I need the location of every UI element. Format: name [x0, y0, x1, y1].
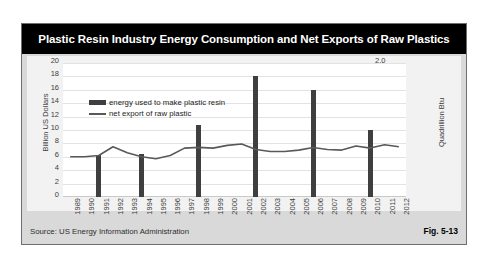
page-title: Plastic Resin Industry Energy Consumptio… — [38, 33, 449, 45]
y-tick-label-left: 8 — [55, 137, 59, 145]
y-tick-label-left: 18 — [51, 70, 59, 78]
x-tick-label: 1991 — [102, 198, 111, 215]
y-tick-label-left: 6 — [55, 151, 59, 159]
y-tick-label-left: 0 — [55, 191, 59, 199]
x-tick-label: 1997 — [187, 198, 196, 215]
plot-canvas — [63, 63, 406, 197]
x-tick-label: 1989 — [73, 198, 82, 215]
x-tick-label: 2006 — [316, 198, 325, 215]
source-caption: Source: US Energy Information Administra… — [30, 227, 189, 236]
x-tick-label: 1993 — [130, 198, 139, 215]
chart-area: 02468101214161820 0.00.20.40.60.81.01.21… — [27, 56, 461, 211]
y-axis-right-title: Quadrillion Btu — [437, 83, 446, 163]
plot-frame — [63, 58, 406, 207]
x-tick-label: 2010 — [373, 198, 382, 215]
x-tick-label: 2002 — [259, 198, 268, 215]
y-tick-label-left: 4 — [55, 164, 59, 172]
figure-container: Plastic Resin Industry Energy Consumptio… — [21, 23, 467, 245]
x-tick-label: 1998 — [202, 198, 211, 215]
y-tick-label-left: 14 — [51, 97, 59, 105]
x-tick-label: 2000 — [230, 198, 239, 215]
y-tick-label-left: 12 — [51, 111, 59, 119]
x-tick-label: 2001 — [245, 198, 254, 215]
legend-item-export: net export of raw plastic — [89, 108, 225, 119]
x-tick-label: 1996 — [173, 198, 182, 215]
chart-legend: energy used to make plastic resin net ex… — [89, 97, 225, 119]
x-tick-label: 2004 — [288, 198, 297, 215]
x-tick-label: 1995 — [159, 198, 168, 215]
figure-number: Fig. 5-13 — [424, 226, 458, 236]
x-tick-label: 1994 — [145, 198, 154, 215]
y-tick-label-left: 2 — [55, 178, 59, 186]
x-tick-label: 2005 — [302, 198, 311, 215]
x-tick-label: 1992 — [116, 198, 125, 215]
y-tick-label-left: 16 — [51, 84, 59, 92]
y-axis-left-title: Billion US Dollars — [41, 83, 50, 163]
bar-swatch-icon — [89, 100, 106, 105]
x-tick-label: 2012 — [402, 198, 411, 215]
figure-title-bar: Plastic Resin Industry Energy Consumptio… — [22, 24, 466, 54]
x-tick-label: 2008 — [345, 198, 354, 215]
line-swatch-icon — [89, 113, 106, 115]
x-tick-label: 1990 — [87, 198, 96, 215]
line-series — [63, 63, 406, 197]
legend-label-energy: energy used to make plastic resin — [109, 98, 225, 107]
y-tick-label-left: 20 — [51, 57, 59, 65]
figure-footer: Source: US Energy Information Administra… — [22, 218, 466, 244]
legend-item-energy: energy used to make plastic resin — [89, 97, 225, 108]
y-tick-label-left: 10 — [51, 124, 59, 132]
x-tick-label: 2011 — [388, 198, 397, 214]
x-tick-label: 2007 — [330, 198, 339, 215]
legend-label-export: net export of raw plastic — [109, 109, 191, 118]
x-tick-label: 2003 — [273, 198, 282, 215]
x-tick-label: 2009 — [359, 198, 368, 215]
x-tick-label: 1999 — [216, 198, 225, 215]
